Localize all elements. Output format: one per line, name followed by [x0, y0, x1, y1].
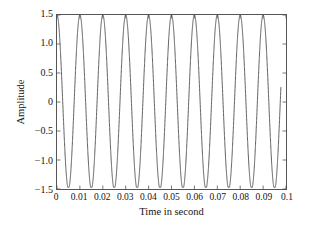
x-tick-label: 0.04 [140, 192, 157, 202]
x-tick-label: 0.1 [281, 192, 293, 202]
x-tick-label: 0 [54, 192, 59, 202]
x-axis-title: Time in second [56, 206, 287, 218]
x-tick-label: 0.09 [256, 192, 273, 202]
x-tick-label: 0.06 [186, 192, 203, 202]
y-tick-label: 0 [5, 97, 56, 107]
waveform-plot [57, 15, 286, 189]
y-tick-label: −1.5 [5, 185, 56, 195]
y-tick-label: 1.0 [5, 38, 56, 48]
plot-area [56, 14, 287, 190]
waveform-line [57, 15, 281, 187]
y-tick-label: 0.5 [5, 68, 56, 78]
x-tick-label: 0.07 [209, 192, 226, 202]
axis-tick-marks [57, 15, 286, 189]
x-tick-label: 0.05 [163, 192, 180, 202]
x-tick-label: 0.01 [71, 192, 88, 202]
y-tick-label: −0.5 [5, 126, 56, 136]
chart-figure: Amplitude 1.51.00.50−0.5−1.0−1.5 00.010.… [0, 0, 309, 231]
x-tick-label: 0.03 [117, 192, 134, 202]
y-tick-label: −1.0 [5, 156, 56, 166]
x-tick-label: 0.08 [232, 192, 249, 202]
y-tick-label: 1.5 [5, 9, 56, 19]
x-tick-label: 0.02 [94, 192, 111, 202]
